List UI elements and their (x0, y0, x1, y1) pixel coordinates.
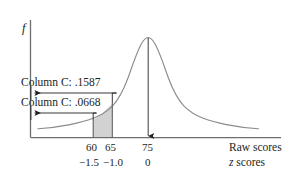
annotation-label-1587: Column C: .1587 (21, 77, 101, 89)
x-tick-raw-65: 65 (105, 142, 116, 153)
z-scores-axis-label: z scores (229, 157, 265, 169)
x-tick-raw-75: 75 (142, 142, 153, 153)
x-tick-z-neg15: −1.5 (79, 157, 99, 168)
z-scores-word: scores (233, 156, 265, 168)
raw-scores-axis-label: Raw scores (229, 142, 282, 154)
normal-distribution-figure: f Column C: .1587 Column C: .0668 60 65 … (0, 0, 307, 178)
annotation-label-0668: Column C: .0668 (21, 97, 101, 109)
x-tick-raw-60: 60 (86, 142, 97, 153)
x-tick-z-zero: 0 (145, 157, 151, 168)
y-axis-label: f (22, 22, 25, 35)
x-tick-z-neg10: −1.0 (103, 157, 123, 168)
